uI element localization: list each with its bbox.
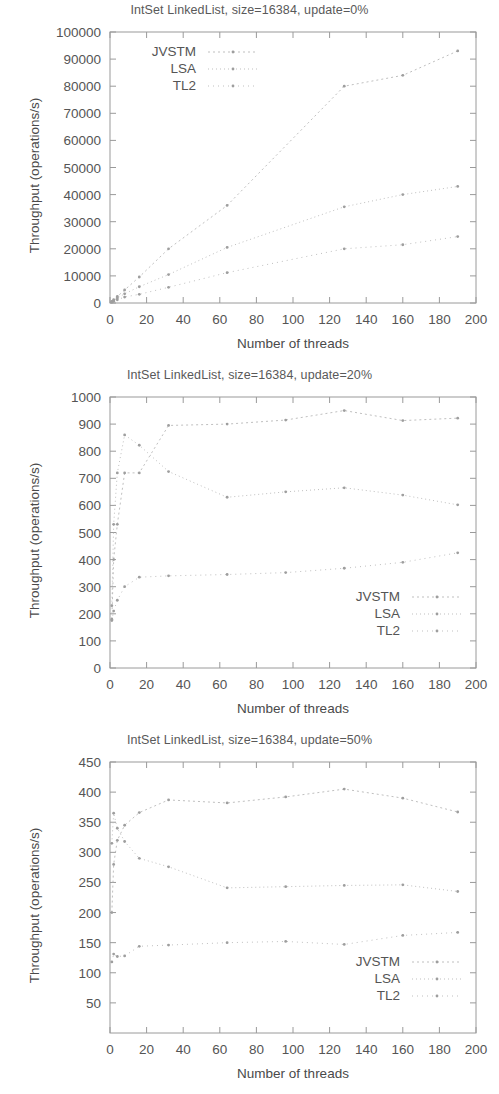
- legend-label-lsa: LSA: [374, 971, 400, 986]
- data-point: [343, 884, 346, 887]
- data-point: [226, 802, 229, 805]
- y-tick-label: 600: [78, 498, 101, 513]
- data-point: [284, 490, 287, 493]
- data-point: [456, 551, 459, 554]
- x-tick-label: 200: [465, 312, 488, 327]
- data-point: [167, 273, 170, 276]
- x-tick-label: 140: [355, 1042, 378, 1057]
- plot-area: 0100200300400500600700800900100002040608…: [0, 365, 499, 705]
- data-point: [110, 961, 113, 964]
- y-tick-label: 500: [78, 526, 101, 541]
- legend-marker-jvstm: [232, 51, 235, 54]
- x-tick-label: 60: [212, 1042, 227, 1057]
- y-tick-label: 20000: [63, 242, 101, 257]
- plot-area: 5010015020025030035040045002040608010012…: [0, 730, 499, 1070]
- data-point: [138, 857, 141, 860]
- x-tick-label: 120: [318, 1042, 341, 1057]
- data-point: [123, 289, 126, 292]
- data-point: [110, 604, 113, 607]
- x-axis-label: Number of threads: [110, 336, 476, 351]
- legend-label-lsa: LSA: [170, 61, 196, 76]
- data-point: [167, 865, 170, 868]
- x-tick-label: 60: [212, 312, 227, 327]
- data-point: [138, 811, 141, 814]
- x-tick-label: 200: [465, 1042, 488, 1057]
- y-tick-label: 100: [78, 966, 101, 981]
- figure-update-50: IntSet LinkedList, size=16384, update=50…: [0, 730, 499, 1094]
- series-line-tl2: [112, 237, 458, 303]
- x-tick-label: 0: [106, 677, 114, 692]
- x-tick-label: 140: [355, 677, 378, 692]
- data-point: [226, 204, 229, 207]
- data-point: [456, 185, 459, 188]
- series-line-lsa: [112, 435, 458, 606]
- y-tick-label: 70000: [63, 106, 101, 121]
- data-point: [343, 943, 346, 946]
- data-point: [401, 243, 404, 246]
- data-point: [123, 585, 126, 588]
- x-tick-label: 40: [176, 677, 191, 692]
- data-point: [116, 471, 119, 474]
- data-point: [123, 840, 126, 843]
- data-point: [284, 796, 287, 799]
- series-line-lsa: [112, 813, 458, 891]
- y-tick-label: 350: [78, 815, 101, 830]
- series-line-jvstm: [112, 411, 458, 620]
- data-point: [123, 824, 126, 827]
- y-tick-label: 200: [78, 607, 101, 622]
- y-tick-label: 90000: [63, 52, 101, 67]
- y-tick-label: 300: [78, 845, 101, 860]
- data-point: [112, 863, 115, 866]
- x-tick-label: 200: [465, 677, 488, 692]
- x-tick-label: 40: [176, 312, 191, 327]
- series-line-tl2: [112, 553, 458, 621]
- legend-marker-tl2: [436, 995, 439, 998]
- data-point: [284, 940, 287, 943]
- data-point: [167, 574, 170, 577]
- y-tick-label: 800: [78, 444, 101, 459]
- y-tick-label: 400: [78, 785, 101, 800]
- y-tick-label: 40000: [63, 188, 101, 203]
- x-axis-label: Number of threads: [110, 701, 476, 716]
- y-tick-label: 200: [78, 906, 101, 921]
- y-tick-label: 80000: [63, 79, 101, 94]
- data-point: [456, 417, 459, 420]
- y-tick-label: 10000: [63, 269, 101, 284]
- data-point: [401, 193, 404, 196]
- data-point: [226, 941, 229, 944]
- legend-marker-lsa: [436, 613, 439, 616]
- data-point: [401, 494, 404, 497]
- data-point: [112, 812, 115, 815]
- data-point: [401, 419, 404, 422]
- y-tick-label: 50000: [63, 161, 101, 176]
- figure-update-20: IntSet LinkedList, size=16384, update=20…: [0, 365, 499, 730]
- y-tick-label: 60000: [63, 133, 101, 148]
- series-line-jvstm: [112, 51, 458, 301]
- data-point: [343, 85, 346, 88]
- data-point: [401, 797, 404, 800]
- data-point: [226, 423, 229, 426]
- data-point: [401, 74, 404, 77]
- legend-marker-tl2: [436, 630, 439, 633]
- x-tick-label: 40: [176, 1042, 191, 1057]
- y-tick-label: 50: [86, 996, 101, 1011]
- data-point: [284, 885, 287, 888]
- x-axis-label: Number of threads: [110, 1066, 476, 1081]
- data-point: [343, 567, 346, 570]
- legend-label-jvstm: JVSTM: [152, 44, 196, 59]
- y-tick-label: 1000: [71, 390, 101, 405]
- data-point: [123, 955, 126, 958]
- data-point: [167, 424, 170, 427]
- x-tick-label: 140: [355, 312, 378, 327]
- plot-frame: [110, 397, 476, 668]
- data-point: [284, 571, 287, 574]
- data-point: [401, 561, 404, 564]
- data-point: [123, 471, 126, 474]
- y-tick-label: 100000: [56, 25, 101, 40]
- x-tick-label: 0: [106, 312, 114, 327]
- data-point: [123, 292, 126, 295]
- figure-page: IntSet LinkedList, size=16384, update=0%…: [0, 0, 499, 1094]
- series-line-tl2: [112, 932, 458, 962]
- data-point: [138, 285, 141, 288]
- data-point: [112, 610, 115, 613]
